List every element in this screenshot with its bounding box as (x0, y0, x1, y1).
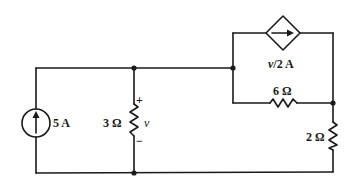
current-source-label: 5 A (53, 116, 70, 130)
resistor-3-label: 3 Ω (103, 116, 122, 130)
resistor-6-label: 6 Ω (273, 84, 292, 98)
current-source-5a: 5 A (22, 109, 70, 137)
wires (36, 33, 333, 173)
voltage-v-label: v (144, 116, 150, 130)
resistor-2-label: 2 Ω (306, 130, 325, 144)
circuit-diagram: 5 A 3 Ω + v − v/2 A 6 Ω 2 Ω (0, 0, 356, 188)
dependent-current-source: v/2 A (266, 16, 300, 71)
resistor-3-ohm: 3 Ω + v − (103, 93, 150, 148)
resistor-6-ohm: 6 Ω (270, 84, 297, 107)
node-dot (131, 65, 136, 70)
node-dot (131, 170, 136, 175)
voltage-plus-sign: + (136, 93, 143, 107)
arrow-right-icon (287, 30, 294, 37)
dependent-source-label: v/2 A (268, 57, 294, 71)
voltage-minus-sign: − (136, 134, 143, 148)
arrow-up-icon (33, 111, 40, 118)
node-dot (330, 100, 335, 105)
node-dot (230, 65, 235, 70)
resistor-2-ohm: 2 Ω (306, 122, 337, 150)
